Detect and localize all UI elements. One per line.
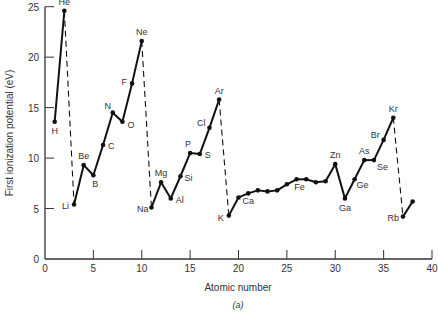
element-label-o: O — [127, 120, 134, 130]
y-tick-label: 5 — [33, 204, 39, 215]
data-point — [401, 214, 406, 219]
element-label-rb: Rb — [387, 213, 399, 223]
data-line — [403, 201, 413, 216]
element-label-h: H — [51, 126, 58, 136]
data-line — [161, 182, 171, 198]
data-point — [256, 188, 261, 193]
element-label-mg: Mg — [155, 168, 168, 178]
data-point — [314, 180, 319, 185]
element-label-al: Al — [176, 195, 184, 205]
period-break-line — [142, 41, 152, 208]
data-point — [410, 199, 415, 204]
data-point — [188, 151, 193, 156]
data-line — [229, 197, 239, 215]
x-tick-label: 30 — [330, 263, 342, 274]
y-tick-label: 25 — [28, 2, 40, 13]
element-label-fe: Fe — [294, 182, 305, 192]
data-point — [207, 126, 212, 131]
data-line — [345, 179, 355, 198]
element-label-zn: Zn — [330, 150, 341, 160]
y-axis-label: First ionization potential (eV) — [4, 70, 15, 197]
data-line — [93, 145, 103, 175]
data-line — [151, 182, 161, 207]
element-label-ar: Ar — [215, 86, 224, 96]
element-label-kr: Kr — [389, 104, 398, 114]
data-point — [294, 177, 299, 182]
data-point — [159, 180, 164, 185]
data-point — [62, 8, 67, 13]
data-point — [362, 158, 367, 163]
data-line — [209, 100, 219, 128]
data-point — [236, 195, 241, 200]
x-tick-label: 25 — [281, 263, 293, 274]
data-line — [55, 11, 65, 122]
data-point — [227, 213, 232, 218]
data-point — [130, 81, 135, 86]
data-point — [246, 191, 251, 196]
data-line — [326, 164, 336, 181]
period-break-line — [393, 118, 403, 217]
x-tick-label: 10 — [136, 263, 148, 274]
data-point — [372, 158, 377, 163]
period-break-line — [64, 11, 74, 205]
caption: (a) — [233, 300, 244, 310]
element-labels: HHeLiBeBCNOFNeNaMgAlSiPSClArKCaFeZnGaGeA… — [51, 0, 399, 223]
element-label-c: C — [108, 141, 115, 151]
data-point — [285, 182, 290, 187]
element-label-f: F — [122, 77, 128, 87]
data-point — [110, 110, 115, 115]
data-point — [178, 174, 183, 179]
period-break-line — [219, 100, 229, 216]
x-tick-label: 15 — [185, 263, 197, 274]
x-tick-label: 40 — [426, 263, 438, 274]
data-point — [52, 119, 57, 124]
element-label-cl: Cl — [197, 118, 206, 128]
data-point — [120, 119, 125, 124]
data-line — [374, 140, 384, 160]
element-label-na: Na — [137, 204, 149, 214]
element-label-ga: Ga — [339, 203, 351, 213]
element-label-ne: Ne — [136, 27, 148, 37]
data-point — [343, 196, 348, 201]
data-point — [72, 202, 77, 207]
element-label-s: S — [205, 150, 211, 160]
element-label-b: B — [92, 179, 98, 189]
x-tick-label: 35 — [378, 263, 390, 274]
data-line — [74, 165, 84, 204]
data-point — [391, 115, 396, 120]
data-line — [335, 164, 345, 198]
data-point — [168, 196, 173, 201]
ionization-chart: 05101520253035400510152025 HHeLiBeBCNOFN… — [0, 0, 438, 312]
element-label-k: K — [218, 213, 224, 223]
y-tick-label: 15 — [28, 103, 40, 114]
element-label-be: Be — [78, 151, 89, 161]
data-point — [217, 97, 222, 102]
data-line — [122, 83, 132, 121]
data-point — [149, 205, 154, 210]
element-label-li: Li — [62, 201, 69, 211]
element-label-si: Si — [184, 173, 192, 183]
data-point — [381, 138, 386, 143]
y-tick-label: 20 — [28, 52, 40, 63]
data-point — [81, 163, 86, 168]
y-tick-label: 10 — [28, 153, 40, 164]
element-label-he: He — [59, 0, 71, 7]
element-label-se: Se — [377, 162, 388, 172]
data-point — [275, 188, 280, 193]
data-point — [139, 39, 144, 44]
y-tick-label: 0 — [33, 254, 39, 265]
element-label-br: Br — [371, 130, 380, 140]
data-point — [304, 177, 309, 182]
data-line — [132, 41, 142, 83]
element-label-ca: Ca — [243, 196, 255, 206]
data-point — [198, 152, 203, 157]
element-label-ge: Ge — [357, 180, 369, 190]
data-line — [355, 160, 365, 179]
x-tick-label: 5 — [91, 263, 97, 274]
element-label-as: As — [359, 146, 370, 156]
data-line — [384, 118, 394, 140]
element-label-p: P — [185, 139, 191, 149]
x-tick-label: 20 — [233, 263, 245, 274]
data-point — [333, 162, 338, 167]
data-point — [323, 179, 328, 184]
